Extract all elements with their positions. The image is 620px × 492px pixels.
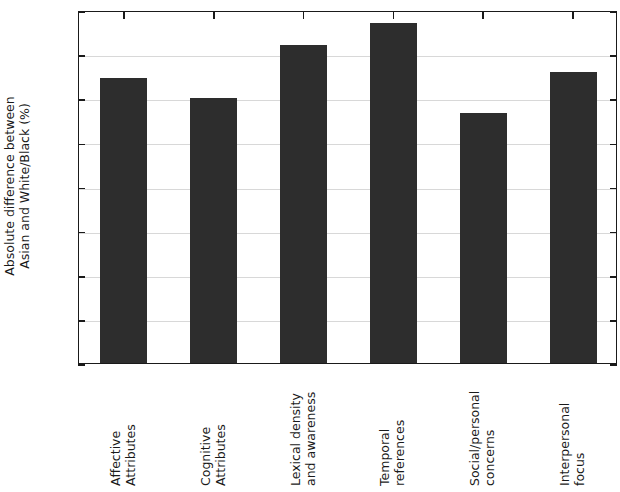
- x-axis-tick-label-line-2: references: [392, 420, 407, 486]
- bar: [370, 23, 417, 363]
- x-axis-tick-label-line-2: focus: [572, 403, 587, 486]
- x-axis-tick-label-line-2: Attributes: [213, 424, 228, 486]
- y-axis-title: Absolute difference between Asian and Wh…: [0, 0, 34, 372]
- x-axis-tick-labels: AffectiveAttributesCognitiveAttributesLe…: [78, 368, 617, 492]
- y-axis-title-text: Absolute difference between Asian and Wh…: [2, 96, 32, 275]
- y-axis-title-line-1: Absolute difference between: [2, 96, 17, 275]
- bar-chart-figure: Absolute difference between Asian and Wh…: [0, 0, 620, 492]
- x-axis-tick-label-text: Interpersonalfocus: [557, 403, 587, 486]
- x-axis-tick-label-text: AffectiveAttributes: [108, 424, 138, 486]
- x-axis-tick-label-text: Lexical densityand awareness: [288, 392, 318, 486]
- bar: [100, 78, 147, 363]
- y-axis-tick-mark: [610, 364, 617, 366]
- x-axis-tick-label-line-2: concerns: [482, 391, 497, 486]
- y-axis-tick-mark: [78, 364, 85, 366]
- x-axis-tick-label-line-2: and awareness: [303, 392, 318, 486]
- plot-area: 0246810121416: [78, 11, 617, 364]
- bar: [280, 45, 327, 363]
- x-axis-tick-label-line-1: Affective: [108, 424, 123, 486]
- x-axis-tick-label-line-2: Attributes: [123, 424, 138, 486]
- x-axis-tick-label-text: CognitiveAttributes: [198, 424, 228, 486]
- x-axis-tick-label-line-1: Cognitive: [198, 424, 213, 486]
- bar: [550, 72, 597, 363]
- x-axis-tick-label-line-1: Interpersonal: [557, 403, 572, 486]
- x-axis-tick-label-line-1: Social/personal: [467, 391, 482, 486]
- bar: [190, 98, 237, 363]
- x-axis-tick-label-line-1: Temporal: [377, 420, 392, 486]
- bars-layer: [79, 12, 616, 363]
- x-axis-tick-label-line-1: Lexical density: [288, 392, 303, 486]
- x-axis-tick-label-text: Temporalreferences: [377, 420, 407, 486]
- y-axis-title-line-2: Asian and White/Black (%): [17, 103, 32, 269]
- bar: [460, 113, 507, 363]
- x-axis-tick-label-text: Social/personalconcerns: [467, 391, 497, 486]
